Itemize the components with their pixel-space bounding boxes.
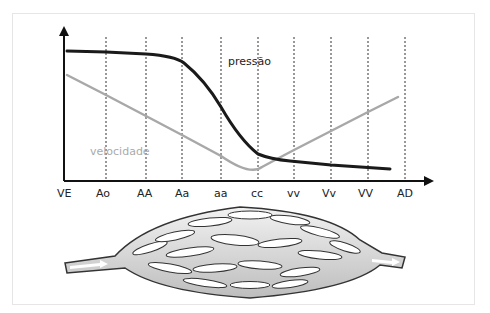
x-label-aa-upper: AA <box>137 187 153 200</box>
x-label-ve: VE <box>57 187 72 200</box>
x-label-aa-lower: aa <box>214 187 227 200</box>
x-label-aa-mixed: Aa <box>175 187 189 200</box>
x-label-cc: cc <box>251 187 263 200</box>
x-label-vv-upper: VV <box>358 187 374 200</box>
pressure-label: pressão <box>228 55 271 68</box>
x-label-vv: vv <box>287 187 301 200</box>
velocity-label: velocidade <box>90 145 150 158</box>
x-label-ad: AD <box>397 187 413 200</box>
vascular-network-illustration <box>65 207 405 298</box>
x-label-vv-mixed: Vv <box>322 187 337 200</box>
x-label-ao: Ao <box>96 187 110 200</box>
x-axis-labels: VE Ao AA Aa aa cc vv Vv VV AD <box>57 187 413 200</box>
circulation-diagram: pressão velocidade VE Ao AA Aa aa cc vv … <box>0 0 490 313</box>
